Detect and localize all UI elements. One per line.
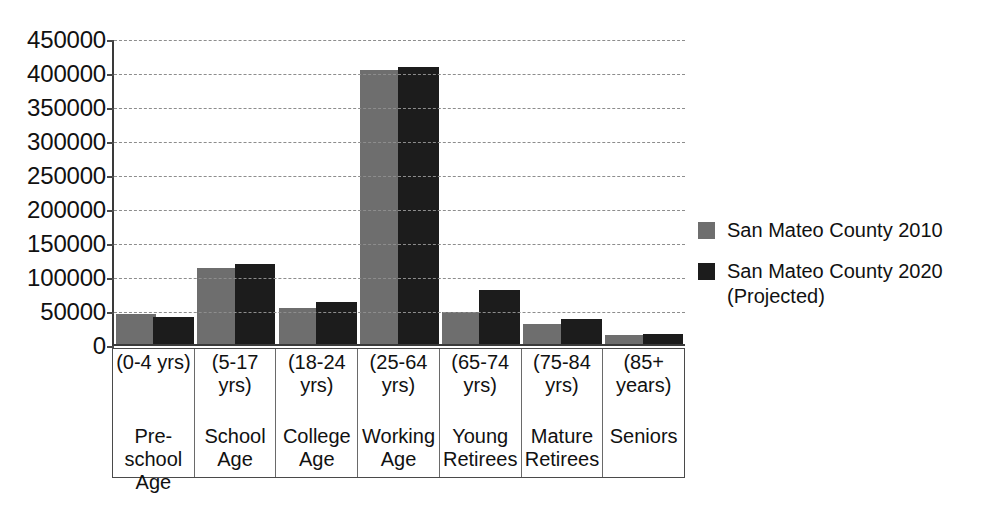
category-cell: (18-24 yrs)College Age [276, 349, 358, 477]
category-name: Young Retirees [440, 425, 521, 471]
y-axis-tick-mark [107, 312, 114, 314]
category-label-table: (0-4 yrs)Pre- school Age(5-17 yrs)School… [112, 348, 685, 478]
y-axis-tick-mark [107, 176, 114, 178]
y-axis-tick-label: 0 [93, 334, 106, 358]
bar [360, 70, 401, 344]
bar-group [114, 40, 196, 344]
y-axis-tick-mark [107, 108, 114, 110]
bar [605, 335, 646, 344]
category-age-range: (5-17 yrs) [195, 351, 276, 397]
category-cell: (75-84 yrs)Mature Retirees [522, 349, 604, 477]
bar-group [522, 40, 604, 344]
y-axis-tick-mark [107, 244, 114, 246]
bar [479, 290, 520, 344]
category-age-range: (65-74 yrs) [440, 351, 521, 397]
y-axis-tick-label: 100000 [27, 266, 106, 290]
gridline [114, 108, 685, 109]
bar [279, 308, 320, 344]
category-cell: (0-4 yrs)Pre- school Age [113, 349, 195, 477]
y-axis-tick-mark [107, 278, 114, 280]
y-axis-tick-mark [107, 210, 114, 212]
gridline [114, 40, 685, 41]
legend-item: San Mateo County 2010 [698, 218, 978, 243]
bar [523, 324, 564, 344]
category-age-range: (25-64 yrs) [358, 351, 439, 397]
y-axis: 4500004000003500003000002500002000001500… [0, 0, 106, 522]
bar [643, 334, 684, 344]
y-axis-tick-label: 350000 [27, 96, 106, 120]
category-age-range: (18-24 yrs) [276, 351, 357, 397]
gridline [114, 74, 685, 75]
y-axis-tick-mark [107, 40, 114, 42]
gridline [114, 312, 685, 313]
legend-label: San Mateo County 2010 [727, 218, 943, 243]
category-age-range: (75-84 yrs) [522, 351, 603, 397]
category-name: College Age [276, 425, 357, 471]
category-cell: (65-74 yrs)Young Retirees [440, 349, 522, 477]
gridline [114, 176, 685, 177]
legend-swatch-icon [698, 263, 715, 280]
bar [235, 264, 276, 344]
bars-layer [114, 40, 685, 344]
bar-group [440, 40, 522, 344]
gridline [114, 244, 685, 245]
y-axis-tick-label: 50000 [40, 300, 106, 324]
category-age-range: (0-4 yrs) [113, 351, 194, 374]
bar [153, 317, 194, 344]
legend-item: San Mateo County 2020 (Projected) [698, 259, 978, 309]
category-name: School Age [195, 425, 276, 471]
category-cell: (5-17 yrs)School Age [195, 349, 277, 477]
y-axis-tick-label: 150000 [27, 232, 106, 256]
y-axis-tick-label: 400000 [27, 62, 106, 86]
bar-group [603, 40, 685, 344]
category-age-range: (85+ years) [603, 351, 684, 397]
bar [316, 302, 357, 344]
legend-swatch-icon [698, 222, 715, 239]
bar [197, 268, 238, 344]
y-axis-tick-label: 450000 [27, 28, 106, 52]
bar-group [277, 40, 359, 344]
y-axis-tick-mark [107, 142, 114, 144]
category-name: Seniors [603, 425, 684, 448]
bar [442, 312, 483, 344]
bar [561, 319, 602, 344]
y-axis-tick-label: 250000 [27, 164, 106, 188]
gridline [114, 278, 685, 279]
bar-group [359, 40, 441, 344]
category-name: Mature Retirees [522, 425, 603, 471]
chart-legend: San Mateo County 2010San Mateo County 20… [698, 218, 978, 325]
category-cell: (25-64 yrs)Working Age [358, 349, 440, 477]
bar-group [196, 40, 278, 344]
gridline [114, 142, 685, 143]
y-axis-tick-label: 200000 [27, 198, 106, 222]
category-cell: (85+ years)Seniors [603, 349, 684, 477]
category-name: Pre- school Age [113, 425, 194, 494]
bar [116, 314, 157, 344]
gridline [114, 210, 685, 211]
bar-chart: 4500004000003500003000002500002000001500… [0, 0, 985, 522]
legend-label: San Mateo County 2020 (Projected) [727, 259, 943, 309]
plot-area [112, 40, 685, 346]
category-name: Working Age [358, 425, 439, 471]
y-axis-tick-label: 300000 [27, 130, 106, 154]
y-axis-tick-mark [107, 74, 114, 76]
